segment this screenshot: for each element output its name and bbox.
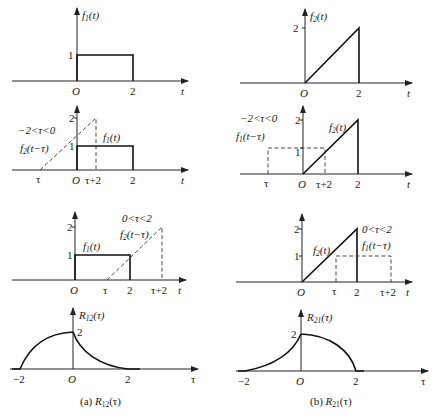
t-label: t [181,85,185,97]
tick-2: 2 [130,85,136,97]
f1-rect-pulse [75,255,130,280]
tick-2: 2 [125,373,131,385]
R12-left-branch [12,332,73,369]
condition-label: 0<τ<2 [122,212,152,224]
panel-f2: f2(t) 2 O 2 t [240,9,412,99]
caption-b: (b) R21(τ) [310,395,352,409]
tau-label: τ [191,373,196,385]
R21-right-branch [301,334,364,371]
panel-a3: 0<τ<2 f2(t−τ) f1(t) 2 1 O τ 2 τ+2 t [12,212,186,296]
tick-1: 1 [67,249,73,261]
tick-2-x: 2 [355,178,361,190]
origin-label: O [68,373,76,385]
f2-axis-label: f2(t) [310,10,328,24]
correlation-diagram: f1(t) 1 O 2 t f2(t) 2 O 2 t −2<τ<0 f2(t−… [0,0,438,418]
f2-label: f2(t) [329,121,347,135]
tick-neg-2: −2 [13,373,25,385]
t-label: t [181,174,185,186]
t-label: t [407,87,411,99]
f1-label: f1(t) [103,131,121,145]
f2-shifted-label: f2(t−τ) [20,142,49,156]
f1-rect-pulse [77,55,133,81]
tick-2: 2 [294,223,300,235]
tick-2-x: 2 [354,286,360,298]
origin-label: O [298,178,306,190]
tick-2: 2 [69,112,75,124]
origin-label: O [300,87,308,99]
panel-b2: −2<τ<0 f1(t−τ) f2(t) 2 1 τ O τ+2 2 t [236,106,412,190]
tick-2-x: 2 [127,284,133,296]
f1-shifted-label: f1(t−τ) [362,239,391,253]
panel-b3: 0<τ<2 f1(t−τ) f2(t) 2 1 O τ 2 τ+2 t [236,214,412,298]
R12-axis-label: R12(τ) [78,309,105,323]
t-label: t [407,178,411,190]
panel-a2: −2<τ<0 f2(t−τ) f1(t) 2 1 τ O τ+2 2 t [12,106,188,186]
R12-right-branch [73,332,140,369]
origin-label: O [70,284,78,296]
R21-axis-label: R21(τ) [306,311,333,325]
condition-label: −2<τ<0 [18,124,56,136]
f1-shifted-dashed [336,256,391,282]
tau-tick: τ [332,285,337,297]
tick-1: 1 [295,146,301,158]
tick-2-x: 2 [130,174,136,186]
tick-2-x: 2 [356,87,362,99]
tau-plus-2-tick: τ+2 [85,174,101,186]
peak-label: 2 [77,326,83,338]
f1-label: f1(t) [83,240,101,254]
f1-shifted-label: f1(t−τ) [236,130,265,144]
tick-2-y: 2 [293,22,299,34]
f2-label: f2(t) [313,244,331,258]
f1-rect-pulse [77,146,133,170]
f1-axis-label: f1(t) [82,9,100,23]
origin-label: O [72,174,80,186]
tick-1: 1 [69,140,75,152]
tau-plus-2-tick: τ+2 [151,284,167,296]
origin-label: O [72,85,80,97]
tick-neg-2: −2 [238,375,250,387]
tau-tick: τ [264,177,269,189]
tick-2: 2 [67,221,73,233]
panel-R12: R12(τ) 2 −2 O 2 τ (a) R12(τ) [10,308,198,409]
panel-R21: R21(τ) 2 −2 O 2 τ (b) R21(τ) [236,310,428,409]
tick-1: 1 [68,49,74,61]
condition-label: −2<τ<0 [240,112,278,124]
caption-a: (a) R12(τ) [80,395,121,409]
origin-label: O [296,375,304,387]
tau-tick: τ [103,284,108,296]
f2-ramp [305,28,359,83]
origin-label: O [297,286,305,298]
tau-label: τ [421,375,426,387]
tick-1: 1 [294,250,300,262]
peak-label: 2 [291,328,297,340]
condition-label: 0<τ<2 [362,223,392,235]
tau-plus-2-tick: τ+2 [316,178,332,190]
tick-2: 2 [353,375,359,387]
t-label: t [406,286,410,298]
tick-2: 2 [295,114,301,126]
t-label: t [178,284,182,296]
tau-plus-2-tick: τ+2 [380,286,396,298]
panel-f1: f1(t) 1 O 2 t [12,8,188,97]
f2-shifted-label: f2(t−τ) [120,228,149,242]
tau-tick: τ [36,173,41,185]
